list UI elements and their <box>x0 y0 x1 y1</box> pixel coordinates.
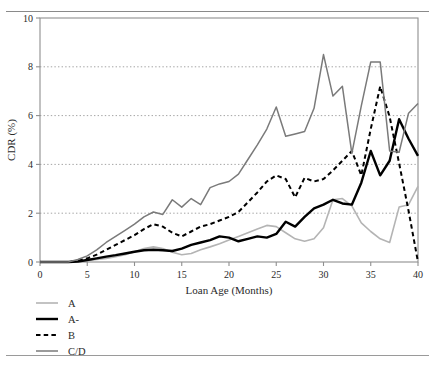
y-axis: 0246810CDR (%) <box>5 13 40 268</box>
legend-label-b: B <box>68 330 75 341</box>
x-axis: 0510152025303540Loan Age (Months) <box>38 262 424 297</box>
cdr-line-chart: 0246810CDR (%)0510152025303540Loan Age (… <box>0 0 435 372</box>
x-axis-title: Loan Age (Months) <box>186 284 273 297</box>
data-series-group <box>40 55 418 262</box>
chart-legend: AA-BC/D <box>36 298 86 357</box>
legend-label-a: A <box>68 298 76 309</box>
y-axis-title: CDR (%) <box>5 119 18 161</box>
x-tick-label: 35 <box>366 269 376 280</box>
plot-frame <box>40 18 418 262</box>
x-tick-label: 40 <box>413 269 423 280</box>
x-tick-label: 5 <box>85 269 90 280</box>
x-tick-label: 30 <box>319 269 329 280</box>
series-line-c-d <box>40 55 418 262</box>
chart-plot-area: 0246810CDR (%)0510152025303540Loan Age (… <box>0 0 435 372</box>
y-tick-label: 4 <box>28 159 33 170</box>
footer-divider <box>6 355 429 356</box>
y-tick-label: 8 <box>28 61 33 72</box>
frame-rect <box>40 18 418 262</box>
y-tick-label: 2 <box>28 208 33 219</box>
x-tick-label: 20 <box>224 269 234 280</box>
x-tick-label: 0 <box>38 269 43 280</box>
legend-label-a-: A- <box>68 314 80 325</box>
grid-lines <box>40 67 418 213</box>
y-tick-label: 0 <box>28 257 33 268</box>
y-tick-label: 10 <box>23 13 33 24</box>
x-tick-label: 25 <box>271 269 281 280</box>
figure-container: 0246810CDR (%)0510152025303540Loan Age (… <box>0 0 435 372</box>
y-tick-label: 6 <box>28 110 33 121</box>
x-tick-label: 15 <box>177 269 187 280</box>
series-line-b <box>40 86 418 262</box>
x-tick-label: 10 <box>130 269 140 280</box>
